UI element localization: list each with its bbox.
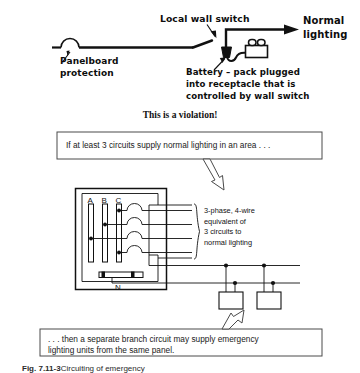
label-normal-lighting: Normal lighting: [303, 14, 347, 41]
label-local-wall-switch: Local wall switch: [160, 14, 250, 25]
bus-label-b: B: [102, 196, 107, 205]
figure-root: Local wall switch Normal lighting Panelb…: [0, 0, 360, 373]
bus-label-neutral: N: [115, 283, 121, 292]
conclusion-callout-text: . . . then a separate branch circuit may…: [48, 334, 318, 356]
callout-up-arrow-bottom: [222, 310, 244, 329]
figure-caption-number: Fig. 7.11-3: [22, 364, 61, 373]
violation-verdict-text: This is a violation!: [0, 110, 360, 121]
label-battery-pack: Battery – pack plugged into receptacle t…: [186, 67, 309, 103]
label-three-phase-four-wire: 3-phase, 4-wire equivalent of 3 circuits…: [204, 206, 255, 248]
panelboard-artwork: [76, 189, 301, 310]
diagram-canvas: [0, 0, 360, 373]
label-panelboard-protection: Panelboard protection: [60, 56, 119, 79]
condition-callout-text: If at least 3 circuits supply normal lig…: [66, 140, 316, 151]
callout-down-arrow-top: [203, 159, 224, 190]
figure-caption-text: Circuiting of emergency: [61, 364, 145, 373]
bus-label-a: A: [88, 196, 93, 205]
bus-label-c: C: [116, 196, 122, 205]
figure-caption: Fig. 7.11-3Circuiting of emergency: [22, 364, 145, 373]
